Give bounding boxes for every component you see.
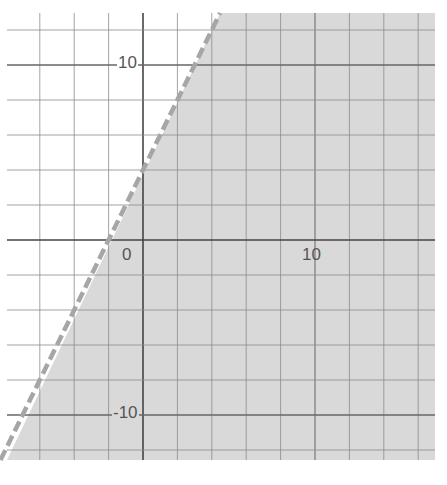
x-tick-label-0: 0 xyxy=(122,246,131,263)
y-tick-label-neg10: -10 xyxy=(112,404,139,421)
y-tick-label-10: 10 xyxy=(117,54,138,71)
x-tick-label-10: 10 xyxy=(302,246,321,263)
shaded-region xyxy=(7,13,435,460)
inequality-graph xyxy=(0,0,447,485)
